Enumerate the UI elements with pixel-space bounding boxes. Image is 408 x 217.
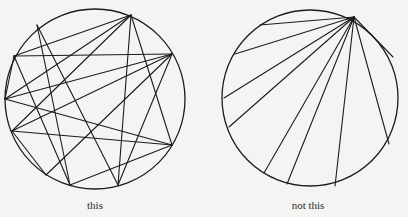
caption-this: this — [87, 199, 103, 211]
chord-line — [5, 56, 14, 99]
chord-line — [37, 25, 118, 185]
chord-line — [46, 54, 172, 175]
fan-chord-line — [229, 17, 354, 127]
chord-line — [12, 15, 131, 131]
right-circle — [222, 10, 398, 186]
chord-line — [5, 54, 172, 99]
chord-line — [12, 131, 46, 175]
chord-line — [12, 54, 172, 131]
right-circle-figure — [222, 10, 398, 186]
fan-chord-line — [287, 17, 354, 184]
left-circle-figure — [5, 9, 185, 189]
fan-chord-line — [354, 17, 389, 144]
fan-chord-line — [335, 17, 354, 186]
chord-diagram-canvas — [0, 0, 408, 217]
caption-not-this: not this — [292, 199, 325, 211]
chord-line — [14, 54, 172, 56]
chord-line — [131, 15, 172, 145]
fan-chord-line — [224, 17, 354, 98]
